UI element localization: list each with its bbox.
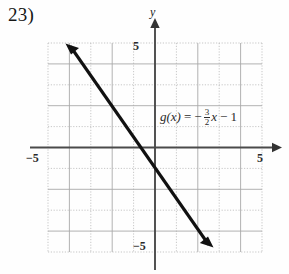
y-axis-tick-label-5: 5 xyxy=(133,40,139,52)
y-axis-tick-label-negative-5: −5 xyxy=(133,240,146,252)
x-axis xyxy=(30,143,282,152)
equals-sign: = xyxy=(181,109,194,124)
function-equation-label: g(x)=−32x− 1 xyxy=(160,108,237,127)
worksheet-page: 23) xyxy=(0,0,289,274)
x-axis-tick-label-negative-5: −5 xyxy=(26,152,39,164)
minus-sign: − xyxy=(194,109,202,124)
function-argument: (x) xyxy=(167,109,181,124)
x-axis-tick-label-5: 5 xyxy=(257,152,263,164)
constant-term: − 1 xyxy=(217,109,237,124)
fraction-three-halves: 32 xyxy=(204,108,211,127)
coordinate-plane-graph xyxy=(0,0,289,274)
fraction-denominator: 2 xyxy=(204,118,211,127)
y-axis-name-label: y xyxy=(150,6,155,18)
function-line-gx xyxy=(66,44,214,248)
y-axis xyxy=(150,18,159,270)
